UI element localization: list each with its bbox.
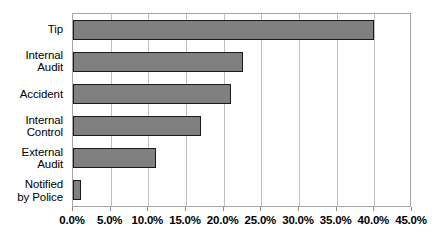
bar-tip (73, 20, 374, 39)
bar-internal-audit (73, 52, 243, 71)
bar-slot (73, 78, 410, 110)
bar-slot (73, 46, 410, 78)
category-label-external-audit: External Audit (0, 142, 68, 174)
category-axis: Tip Internal Audit Accident Internal Con… (0, 13, 68, 207)
category-label-notified-by-police: Notified by Police (0, 175, 68, 207)
bar-accident (73, 84, 231, 103)
value-axis-label: 25.0% (245, 213, 277, 227)
bar-slot (73, 110, 410, 142)
tick-mark (147, 207, 148, 211)
value-axis-label: 20.0% (207, 213, 239, 227)
value-axis-label: 0.0% (59, 213, 84, 227)
value-axis-label: 40.0% (358, 213, 390, 227)
value-axis-label: 15.0% (169, 213, 201, 227)
value-axis-label: 5.0% (97, 213, 122, 227)
bar-slot (73, 14, 410, 46)
tick-mark (336, 207, 337, 211)
category-label-internal-audit: Internal Audit (0, 45, 68, 77)
value-axis-label: 35.0% (320, 213, 352, 227)
tick-mark (260, 207, 261, 211)
bar-chart: Tip Internal Audit Accident Internal Con… (0, 0, 441, 244)
value-axis-label: 30.0% (282, 213, 314, 227)
plot-area (72, 13, 411, 207)
bar-slot (73, 174, 410, 206)
bars-layer (73, 14, 410, 206)
value-axis-label: 10.0% (132, 213, 164, 227)
category-label-internal-control: Internal Control (0, 110, 68, 142)
tick-mark (223, 207, 224, 211)
category-label-accident: Accident (0, 78, 68, 110)
tick-mark (110, 207, 111, 211)
tick-mark (185, 207, 186, 211)
tick-mark (298, 207, 299, 211)
bar-notified-by-police (73, 180, 81, 199)
tick-mark (411, 207, 412, 211)
bar-slot (73, 142, 410, 174)
value-axis-label: 45.0% (395, 213, 427, 227)
bar-internal-control (73, 116, 201, 135)
tick-mark (373, 207, 374, 211)
bar-external-audit (73, 148, 156, 167)
tick-mark (72, 207, 73, 211)
category-label-tip: Tip (0, 13, 68, 45)
value-axis-ticks (72, 207, 411, 212)
value-axis-labels: 0.0%5.0%10.0%15.0%20.0%25.0%30.0%35.0%40… (0, 213, 441, 233)
